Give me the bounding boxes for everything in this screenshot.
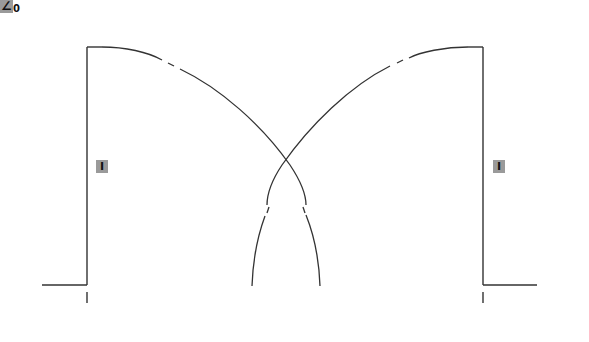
- current-label-right: I: [493, 160, 505, 173]
- right-arc: [252, 47, 468, 286]
- right-arc-segment-4: [267, 207, 269, 213]
- left-arc-segment-5: [306, 215, 320, 286]
- left-arc-segment-3: [180, 69, 306, 205]
- right-arc-segment-5: [252, 216, 265, 286]
- left-arc-segment-1: [102, 47, 162, 60]
- left-arc: [102, 47, 320, 286]
- current-label-left: I: [96, 160, 108, 173]
- right-arc-segment-3: [267, 66, 390, 205]
- left-arc-segment-4: [303, 207, 305, 213]
- left-pulse: [42, 47, 102, 303]
- right-pulse: [468, 47, 537, 303]
- left-arc-segment-2: [168, 63, 174, 66]
- right-arc-segment-2: [397, 60, 403, 63]
- right-arc-segment-1: [409, 47, 468, 58]
